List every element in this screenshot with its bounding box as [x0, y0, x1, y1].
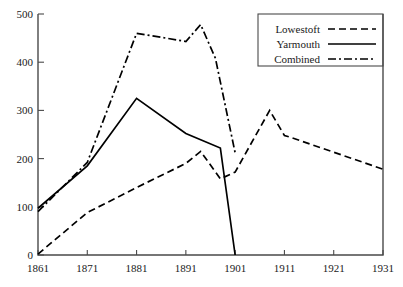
y-tick-label: 200 [17, 153, 34, 165]
line-chart: 0100200300400500 18611871188118911901191… [0, 0, 403, 287]
y-tick-label: 300 [17, 104, 34, 116]
y-tick-label: 500 [17, 8, 34, 20]
x-tick-label: 1921 [323, 262, 345, 274]
chart-canvas: 0100200300400500 18611871188118911901191… [0, 0, 403, 287]
axes-group [38, 14, 383, 255]
y-tick-label: 400 [17, 56, 34, 68]
legend-label-lowestoft: Lowestoft [275, 23, 320, 35]
series-line-yarmouth [38, 98, 235, 255]
y-axis-ticks: 0100200300400500 [17, 8, 45, 261]
x-tick-label: 1861 [27, 262, 49, 274]
x-tick-label: 1881 [126, 262, 148, 274]
axis-frame [38, 14, 383, 255]
chart-legend: LowestoftYarmouthCombined [258, 14, 383, 66]
legend-label-yarmouth: Yarmouth [276, 38, 320, 50]
x-tick-label: 1891 [175, 262, 197, 274]
x-tick-label: 1901 [224, 262, 246, 274]
x-tick-label: 1931 [372, 262, 394, 274]
series-line-lowestoft [38, 110, 383, 254]
x-axis-ticks: 18611871188118911901191119211931 [27, 250, 394, 274]
x-tick-label: 1911 [274, 262, 296, 274]
x-tick-label: 1871 [76, 262, 98, 274]
y-tick-label: 100 [17, 201, 34, 213]
legend-label-combined: Combined [274, 53, 320, 65]
y-tick-label: 0 [28, 249, 34, 261]
